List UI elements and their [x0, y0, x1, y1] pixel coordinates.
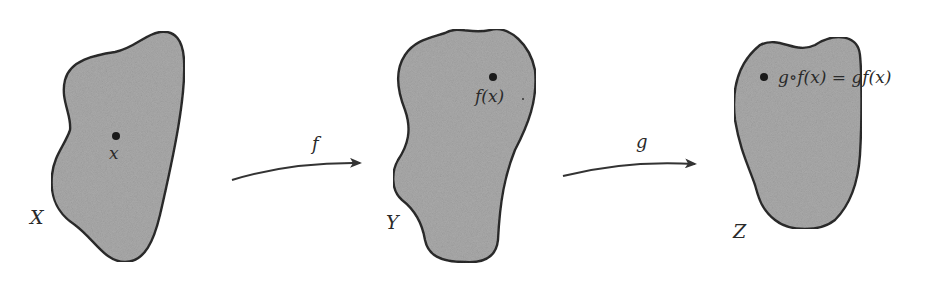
arrow-f-label: f	[312, 135, 319, 153]
point-fx-label: f(x)	[475, 88, 504, 105]
arrow-g-label: g	[636, 133, 648, 151]
set-z-blob	[734, 37, 861, 229]
diagram-shapes	[0, 0, 930, 283]
set-z-label: Z	[733, 222, 746, 241]
set-x-label: X	[30, 208, 44, 227]
point-x	[112, 132, 120, 140]
arrow-g	[563, 163, 695, 176]
set-y-label: Y	[386, 213, 399, 232]
set-y-blob	[393, 29, 535, 262]
point-gfx-label: g∘f(x) = gf(x)	[778, 69, 891, 86]
point-gfx	[760, 73, 768, 81]
point-fx	[489, 73, 497, 81]
arrow-f	[232, 163, 360, 180]
composition-diagram: x X f(x) Y g∘f(x) = gf(x) Z f g	[0, 0, 930, 283]
point-x-label: x	[109, 145, 119, 162]
